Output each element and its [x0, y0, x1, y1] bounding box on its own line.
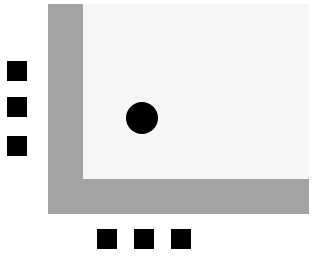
light-panel	[83, 4, 309, 179]
left-marker-3	[7, 136, 27, 156]
left-marker-1	[7, 61, 27, 81]
bottom-marker-3	[171, 229, 191, 249]
bottom-marker-1	[97, 229, 117, 249]
bottom-marker-2	[134, 229, 154, 249]
left-marker-2	[7, 97, 27, 117]
black-dot	[126, 102, 158, 134]
